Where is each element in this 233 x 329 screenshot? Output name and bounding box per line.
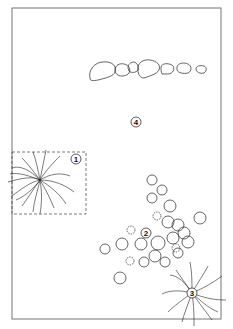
grass-clump-1 [8,150,74,214]
pond-plan: 1 2 3 4 [0,0,233,329]
callout-2: 2 [141,228,151,238]
callout-3: 3 [187,288,197,298]
water-lilies [100,175,206,284]
svg-text:3: 3 [190,289,195,298]
stepping-stones [90,60,207,81]
svg-text:2: 2 [144,229,149,238]
svg-text:1: 1 [74,155,79,164]
callout-1: 1 [71,154,81,164]
callout-4: 4 [131,117,141,127]
svg-text:4: 4 [134,118,139,127]
